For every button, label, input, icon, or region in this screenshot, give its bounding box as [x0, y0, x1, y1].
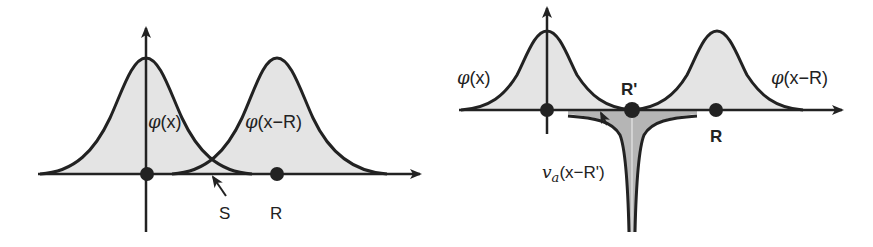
label-phi-x-minus-r-right: φ(x−R): [771, 67, 828, 88]
left-panel: φ(x) φ(x−R) S R: [38, 28, 420, 232]
overlap-pointer-arrow: [213, 177, 226, 196]
label-phi-x: φ(x): [148, 111, 182, 132]
label-r-right: R: [710, 127, 722, 146]
r-prime-dot: [624, 102, 640, 118]
label-r: R: [270, 204, 282, 223]
label-s: S: [219, 204, 230, 223]
right-panel: φ(x) φ(x−R) R' R va(x−R'): [457, 8, 842, 232]
potential-well-right-curve: [635, 116, 697, 232]
origin-dot: [140, 167, 154, 181]
label-phi-x-minus-r: φ(x−R): [245, 111, 302, 132]
r-dot-right: [709, 103, 723, 117]
label-r-prime: R': [621, 80, 637, 99]
label-potential: va(x−R'): [542, 162, 605, 185]
r-dot: [270, 167, 284, 181]
diagram-canvas: φ(x) φ(x−R) S R φ(x) φ(x−R) R' R va(x−R'…: [0, 0, 873, 247]
label-phi-x-right: φ(x): [457, 67, 491, 88]
origin-dot-right: [540, 103, 554, 117]
